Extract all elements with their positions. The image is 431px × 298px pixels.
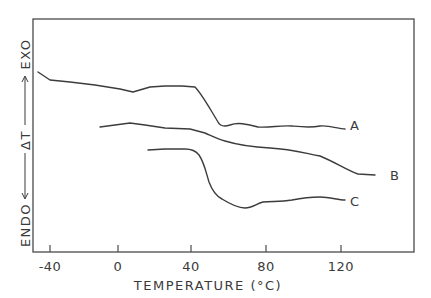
curve-a [38, 72, 345, 129]
curve-label-b: B [390, 168, 399, 183]
y-label-delta-t: ΔT [18, 130, 33, 150]
y-axis-label: EXO ΔT ENDO [18, 38, 33, 247]
x-tick-label: 40 [182, 259, 200, 274]
x-tick-label: 120 [328, 259, 354, 274]
y-label-endo: ENDO [18, 203, 33, 247]
curve-label-a: A [350, 118, 359, 133]
x-tick-label: -40 [39, 259, 62, 274]
x-axis-title: TEMPERATURE (°C) [133, 278, 282, 293]
y-label-exo: EXO [18, 38, 33, 69]
x-tick-label: 0 [114, 259, 123, 274]
x-tick-label: 80 [257, 259, 275, 274]
curve-b [100, 123, 375, 175]
curve-c [148, 149, 345, 208]
dta-chart: -40 0 40 80 120 TEMPERATURE (°C) EXO ΔT … [0, 0, 431, 298]
plot-frame [33, 19, 414, 252]
curve-label-c: C [350, 194, 359, 209]
